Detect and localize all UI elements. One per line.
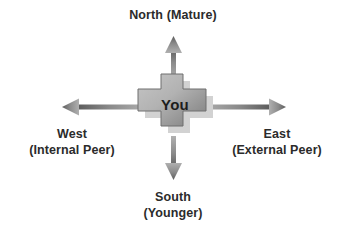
label-west: West (Internal Peer) [2, 127, 142, 158]
label-west-qualifier: (Internal Peer) [2, 143, 142, 159]
label-south-qualifier: (Younger) [0, 206, 346, 222]
label-south: South (Younger) [0, 190, 346, 221]
label-west-name: West [57, 127, 87, 141]
label-north: North (Mature) [0, 8, 346, 24]
center-label: You [140, 96, 210, 113]
label-east-name: East [264, 127, 291, 141]
compass-diagram: You North (Mature) East (External Peer) … [0, 0, 346, 247]
label-east: East (External Peer) [208, 127, 346, 158]
arrow-up-icon [165, 36, 182, 80]
arrow-left-icon [62, 99, 148, 116]
label-north-qualifier: (Mature) [167, 8, 217, 22]
label-north-name: North [129, 8, 163, 22]
arrow-down-icon [165, 136, 182, 180]
label-east-qualifier: (External Peer) [208, 143, 346, 159]
label-south-name: South [155, 190, 191, 204]
